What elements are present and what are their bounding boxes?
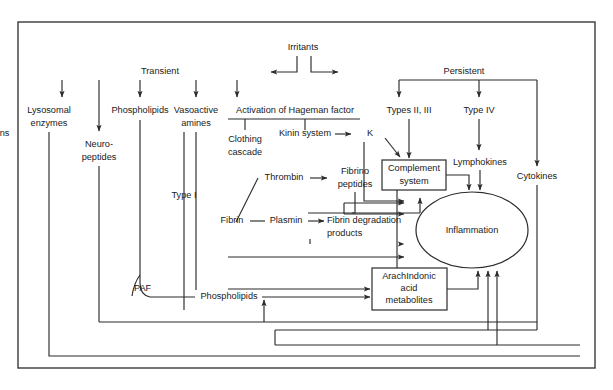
node-inflammation-label: Inflammation [446,225,499,235]
node-kinin-system: Kinin system [279,128,331,138]
node-lymphokines: Lymphokines [453,157,507,167]
node-fibrin-degradation-line2: products [327,228,363,238]
node-fibrin: Fibrin [221,215,244,225]
edge-irritants-to-persistent [311,56,338,72]
return-bus-bottom [49,340,580,356]
node-fibrino-peptides-line2: peptides [338,179,373,189]
node-irritants: Irritants [288,42,319,52]
inflammation-pathway-diagram: Irritants Transient Persistent Lysosomal… [0,0,613,390]
node-neuropeptides-line1: Neuro- [85,139,113,149]
node-plasmin: Plasmin [270,215,303,225]
node-vasoactive-amines-line1: Vasoactive [174,105,218,115]
node-phospholipids-bottom: Phospholipids [200,291,258,301]
edge-phospholipids-top-down [140,120,195,297]
node-fibrin-degradation-line1: Fibrin degradation [327,215,401,225]
node-type-i: Type I [171,190,196,200]
diagram-canvas: Irritants Transient Persistent Lysosomal… [0,0,613,390]
edge-arachidonic-to-inflammation [447,271,478,289]
node-types-ii-iii: Types II, III [387,105,432,115]
node-lysosomal-enzymes-line2: enzymes [31,118,68,128]
node-complement-system-line1: Complement [388,163,441,173]
node-arachidonic-line1: ArachIndonic [382,271,436,281]
node-vasoactive-amines-line2: amines [181,118,211,128]
edge-irritants-to-transient [271,56,297,72]
node-clothing-cascade-line1: Clothing [228,134,262,144]
edge-kinins-to-complement [385,138,400,157]
node-transient: Transient [141,66,179,76]
node-complement-system-line2: system [399,176,428,186]
node-persistent: Persistent [444,66,485,76]
node-paf: PAF [134,283,152,293]
node-phospholipids-top: Phospholipids [111,105,169,115]
node-arachidonic-line3: metabolites [386,295,433,305]
node-arachidonic-line2: acid [401,283,418,293]
node-type-iv: Type IV [463,105,495,115]
node-cytokines: Cytokines [517,171,558,181]
node-thrombin: Thrombin [265,172,304,182]
node-clothing-cascade-line2: cascade [228,147,262,157]
node-lysosomal-enzymes-line1: Lysosomal [27,105,71,115]
diagram-border [18,22,595,368]
node-neuropeptides-line2: peptides [82,152,117,162]
node-fibrino-peptides-line1: Fibrino [341,166,369,176]
edge-complement-to-inflammation-top [446,175,469,190]
node-hageman-factor: Activation of Hageman factor [236,105,354,115]
